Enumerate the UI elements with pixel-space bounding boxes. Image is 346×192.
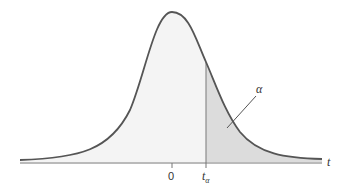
- curve-body-fill: [20, 12, 206, 162]
- upper-tail-shaded-area: [206, 62, 322, 162]
- alpha-leader-line: [227, 96, 256, 128]
- tick-label-zero: 0: [168, 170, 174, 182]
- alpha-label: α: [256, 82, 263, 96]
- axis-label-t: t: [327, 155, 331, 169]
- critical-value-subscript: α: [205, 176, 210, 185]
- critical-value-label: tα: [202, 169, 210, 185]
- t-distribution-figure: α t 0 tα: [0, 0, 346, 192]
- t-distribution-svg: α t 0 tα: [0, 0, 346, 192]
